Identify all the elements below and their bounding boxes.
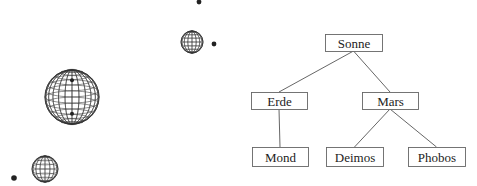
- earth-sphere: [45, 69, 99, 124]
- wireframe-spheres: [32, 31, 203, 182]
- moon-dot-bottom: [11, 175, 17, 181]
- node-label: Erde: [267, 94, 292, 109]
- tree-node-mars: Mars: [363, 93, 419, 110]
- tree-node-phobos: Phobos: [409, 148, 466, 167]
- node-label: Phobos: [418, 150, 456, 165]
- tree-nodes: SonneErdeMarsMondDeimosPhobos: [252, 35, 466, 167]
- mars-sphere: [181, 31, 203, 53]
- node-label: Mars: [377, 94, 404, 109]
- tree-node-sonne: Sonne: [326, 35, 383, 52]
- node-label: Sonne: [338, 36, 371, 51]
- edge-mars-deimos: [355, 109, 391, 147]
- edge-sonne-mars: [354, 51, 391, 92]
- tree-node-erde: Erde: [252, 93, 308, 110]
- node-label: Deimos: [335, 150, 375, 165]
- solar-system-figure: SonneErdeMarsMondDeimosPhobos: [0, 0, 477, 186]
- node-label: Mond: [265, 150, 297, 165]
- hierarchy-tree: SonneErdeMarsMondDeimosPhobos: [252, 35, 466, 167]
- tree-node-mond: Mond: [253, 148, 309, 167]
- tree-node-deimos: Deimos: [327, 148, 384, 167]
- small-sphere: [32, 156, 58, 182]
- edge-mars-phobos: [390, 109, 437, 147]
- moon-dot-mars: [212, 42, 217, 47]
- edge-sonne-erde: [279, 51, 354, 92]
- moon-dot-top: [197, 0, 202, 4]
- edge-erde-mond: [279, 109, 280, 147]
- moon-dots: [11, 0, 216, 181]
